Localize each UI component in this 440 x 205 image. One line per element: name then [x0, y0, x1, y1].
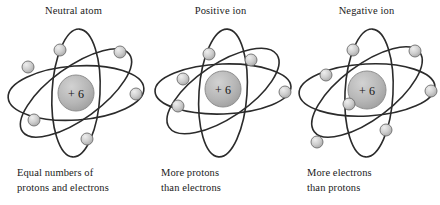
caption-line-2: than electrons: [161, 181, 221, 196]
electron: [320, 69, 332, 81]
nucleus-charge-label: + 6: [215, 83, 231, 97]
panel-title: Positive ion: [147, 4, 294, 17]
electron: [343, 98, 355, 110]
atom-charge-figure: Neutral atom: [0, 0, 440, 205]
caption-line-2: than protons: [307, 181, 372, 196]
electron: [130, 88, 142, 100]
panel-negative-ion: Negative ion: [293, 0, 440, 205]
electron: [380, 124, 392, 136]
electron: [81, 133, 93, 145]
electron: [347, 44, 359, 56]
panel-title: Negative ion: [293, 4, 440, 17]
caption-line-2: protons and electrons: [17, 181, 109, 196]
electron: [114, 46, 126, 58]
nucleus: + 6: [58, 75, 94, 111]
electron: [172, 100, 184, 112]
atom-diagram-negative-ion: + 6: [293, 22, 440, 167]
panel-title: Neutral atom: [0, 4, 147, 17]
electron: [203, 48, 215, 60]
electron: [245, 54, 257, 66]
caption-line-1: Equal numbers of: [17, 166, 109, 181]
nucleus-charge-label: + 6: [68, 87, 84, 101]
electron: [54, 44, 66, 56]
electron: [311, 136, 323, 148]
panel-caption: More protons than electrons: [161, 166, 221, 195]
panel-caption: More electrons than protons: [307, 166, 372, 195]
caption-line-1: More electrons: [307, 166, 372, 181]
nucleus: + 6: [205, 71, 241, 107]
electron: [28, 114, 40, 126]
atom-diagram-neutral: + 6: [0, 22, 147, 167]
panel-neutral-atom: Neutral atom: [0, 0, 147, 205]
panel-caption: Equal numbers of protons and electrons: [17, 166, 109, 195]
caption-line-1: More protons: [161, 166, 221, 181]
electron: [425, 85, 437, 97]
electron: [409, 45, 421, 57]
atom-diagram-positive-ion: + 6: [147, 22, 294, 167]
electron: [177, 73, 189, 85]
panel-positive-ion: Positive ion: [147, 0, 294, 205]
electron: [22, 61, 34, 73]
electron: [279, 86, 291, 98]
nucleus-charge-label: + 6: [359, 84, 375, 98]
